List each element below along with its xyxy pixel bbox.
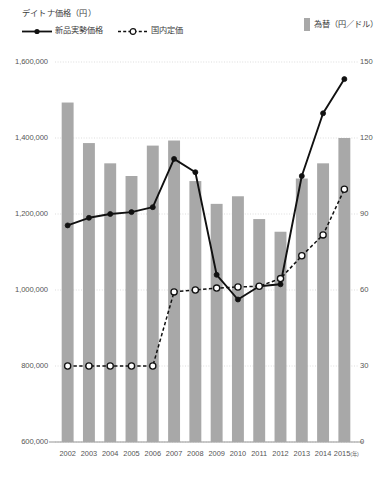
plot-area: [0, 0, 386, 481]
data-point-new-price: [86, 215, 91, 220]
data-point-new-price: [108, 212, 113, 217]
bar-exchange-rate: [62, 103, 74, 442]
data-point-list-price: [86, 363, 92, 369]
bar-exchange-rate: [338, 138, 350, 442]
data-point-list-price: [299, 253, 305, 259]
data-point-list-price: [65, 363, 71, 369]
data-point-new-price: [321, 111, 326, 116]
data-point-new-price: [299, 174, 304, 179]
data-point-list-price: [277, 276, 283, 282]
data-point-list-price: [214, 285, 220, 291]
x-axis-tick-label: 2014: [315, 449, 331, 458]
x-axis-tick-label: 2006: [145, 449, 161, 458]
bar-exchange-rate: [83, 143, 95, 442]
bar-exchange-rate: [232, 196, 244, 442]
plot-svg: [0, 0, 386, 481]
data-point-new-price: [129, 210, 134, 215]
y-axis-tick-label: 1,600,000: [2, 57, 48, 66]
x-axis-tick-label: 2011: [251, 449, 267, 458]
chart-container: デイトナ価格（円） 新品実勢価格 国内定価: [0, 0, 386, 481]
data-point-list-price: [235, 284, 241, 290]
x-axis-tick-label: 2003: [81, 449, 97, 458]
bar-exchange-rate: [189, 181, 201, 442]
bar-exchange-rate: [211, 204, 223, 442]
bar-exchange-rate: [147, 146, 159, 442]
data-point-new-price: [278, 282, 283, 287]
y2-axis-tick-label: 0: [360, 437, 386, 446]
x-axis-tick-label: 2002: [59, 449, 75, 458]
bar-exchange-rate: [296, 179, 308, 442]
x-axis-tick-label: 2015(年): [334, 449, 359, 458]
data-point-list-price: [171, 289, 177, 295]
x-axis-tick-label: 2008: [187, 449, 203, 458]
data-point-list-price: [256, 283, 262, 289]
x-axis-unit-label: (年): [350, 451, 359, 457]
data-point-list-price: [341, 186, 347, 192]
y2-axis-tick-label: 60: [360, 285, 386, 294]
x-axis-tick-label: 2009: [208, 449, 224, 458]
data-point-new-price: [65, 223, 70, 228]
data-point-new-price: [193, 170, 198, 175]
y2-axis-tick-label: 90: [360, 209, 386, 218]
data-point-list-price: [107, 363, 113, 369]
data-point-list-price: [128, 363, 134, 369]
bar-exchange-rate: [126, 176, 138, 442]
data-point-new-price: [172, 156, 177, 161]
y-axis-tick-label: 800,000: [2, 361, 48, 370]
x-axis-tick-label: 2007: [166, 449, 182, 458]
y2-axis-tick-label: 150: [360, 57, 386, 66]
data-point-new-price: [342, 77, 347, 82]
y-axis-tick-label: 1,200,000: [2, 209, 48, 218]
x-axis-tick-label: 2010: [230, 449, 246, 458]
bar-exchange-rate: [317, 163, 329, 442]
y-axis-tick-label: 1,000,000: [2, 285, 48, 294]
data-point-new-price: [214, 272, 219, 277]
y2-axis-tick-label: 120: [360, 133, 386, 142]
y2-axis-tick-label: 30: [360, 361, 386, 370]
x-axis-tick-label: 2013: [294, 449, 310, 458]
bar-exchange-rate: [104, 163, 116, 442]
data-point-new-price: [150, 205, 155, 210]
y-axis-tick-label: 600,000: [2, 437, 48, 446]
x-axis-tick-label: 2004: [102, 449, 118, 458]
y-axis-tick-label: 1,400,000: [2, 133, 48, 142]
x-axis-tick-label: 2005: [123, 449, 139, 458]
x-axis-tick-label: 2012: [272, 449, 288, 458]
data-point-list-price: [320, 232, 326, 238]
data-point-list-price: [150, 363, 156, 369]
bar-exchange-rate: [253, 219, 265, 442]
data-point-list-price: [192, 287, 198, 293]
data-point-new-price: [235, 297, 240, 302]
